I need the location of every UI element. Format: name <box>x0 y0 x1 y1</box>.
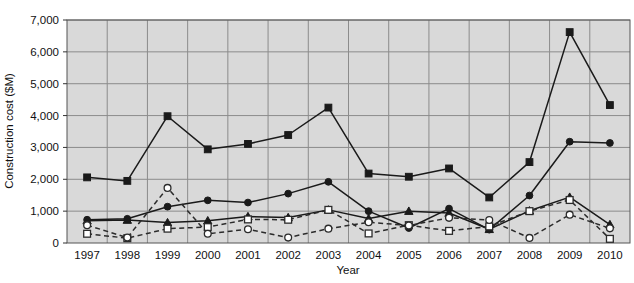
x-axis-title: Year <box>336 264 359 276</box>
data-point-filled-square <box>526 159 533 166</box>
data-point-filled-square <box>566 29 573 36</box>
data-point-open-circle <box>365 219 372 226</box>
data-point-open-circle <box>486 217 493 224</box>
data-point-filled-square <box>124 177 131 184</box>
data-point-filled-square <box>606 102 613 109</box>
data-point-filled-circle <box>245 199 252 206</box>
data-point-filled-square <box>245 141 252 148</box>
data-point-open-square <box>285 216 292 223</box>
x-tick-label: 2003 <box>316 249 342 261</box>
data-point-open-square <box>164 225 171 232</box>
data-point-open-circle <box>606 225 613 232</box>
chart-canvas: 01,0002,0003,0004,0005,0006,0007,000 199… <box>0 0 634 283</box>
data-point-open-circle <box>325 225 332 232</box>
x-tick-label: 2008 <box>517 249 543 261</box>
x-tick-label: 2007 <box>476 249 502 261</box>
data-point-open-circle <box>285 234 292 241</box>
data-point-open-square <box>365 230 372 237</box>
x-tick-label: 2002 <box>275 249 301 261</box>
data-point-filled-square <box>365 170 372 177</box>
data-point-filled-circle <box>606 140 613 147</box>
data-point-open-circle <box>245 226 252 233</box>
data-point-open-circle <box>84 222 91 229</box>
x-tick-label: 1997 <box>74 249 100 261</box>
data-point-filled-square <box>325 104 332 111</box>
x-tick-label: 2006 <box>436 249 462 261</box>
data-point-open-square <box>566 197 573 204</box>
data-point-open-square <box>446 227 453 234</box>
data-point-open-square <box>84 230 91 237</box>
y-tick-label: 2,000 <box>30 173 59 185</box>
y-tick-label: 3,000 <box>30 141 59 153</box>
x-tick-label: 2004 <box>356 249 382 261</box>
data-point-open-circle <box>124 234 131 241</box>
data-point-open-square <box>245 216 252 223</box>
data-point-filled-square <box>446 165 453 172</box>
data-point-open-square <box>606 235 613 242</box>
data-point-filled-square <box>405 173 412 180</box>
data-point-open-circle <box>405 222 412 229</box>
data-point-filled-circle <box>204 197 211 204</box>
data-point-open-circle <box>446 214 453 221</box>
data-point-filled-square <box>285 132 292 139</box>
data-point-open-square <box>204 224 211 231</box>
x-tick-label: 2005 <box>396 249 422 261</box>
data-point-open-circle <box>566 211 573 218</box>
y-tick-label: 6,000 <box>30 46 59 58</box>
x-tick-label: 1998 <box>115 249 141 261</box>
data-point-filled-circle <box>526 192 533 199</box>
data-point-open-square <box>325 206 332 213</box>
x-tick-label: 2009 <box>557 249 583 261</box>
y-tick-label: 5,000 <box>30 78 59 90</box>
y-tick-label: 4,000 <box>30 110 59 122</box>
data-point-open-square <box>526 208 533 215</box>
data-point-open-circle <box>164 184 171 191</box>
data-point-filled-square <box>84 174 91 181</box>
data-point-filled-square <box>486 194 493 201</box>
x-tick-label: 2010 <box>597 249 623 261</box>
x-tick-label: 2001 <box>235 249 261 261</box>
data-point-open-circle <box>526 235 533 242</box>
y-tick-label: 0 <box>53 237 59 249</box>
data-point-open-circle <box>204 230 211 237</box>
x-tick-label: 1999 <box>155 249 181 261</box>
line-chart: 01,0002,0003,0004,0005,0006,0007,000 199… <box>0 0 634 283</box>
data-point-filled-circle <box>285 190 292 197</box>
x-tick-label: 2000 <box>195 249 221 261</box>
data-point-filled-circle <box>164 203 171 210</box>
data-point-filled-square <box>164 113 171 120</box>
y-axis-title: Construction cost ($M) <box>3 73 15 189</box>
data-point-filled-square <box>204 146 211 153</box>
y-tick-label: 1,000 <box>30 205 59 217</box>
data-point-filled-circle <box>325 178 332 185</box>
data-point-filled-circle <box>566 138 573 145</box>
y-tick-label: 7,000 <box>30 14 59 26</box>
